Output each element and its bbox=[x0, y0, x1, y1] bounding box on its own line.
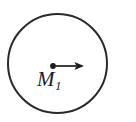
figure-canvas bbox=[0, 0, 136, 122]
mass-label-base: M bbox=[37, 67, 55, 91]
mass-label-subscript: 1 bbox=[55, 78, 62, 93]
mass-label: M1 bbox=[37, 69, 62, 92]
physics-figure: M1 bbox=[0, 0, 136, 122]
boundary-circle bbox=[8, 14, 107, 113]
